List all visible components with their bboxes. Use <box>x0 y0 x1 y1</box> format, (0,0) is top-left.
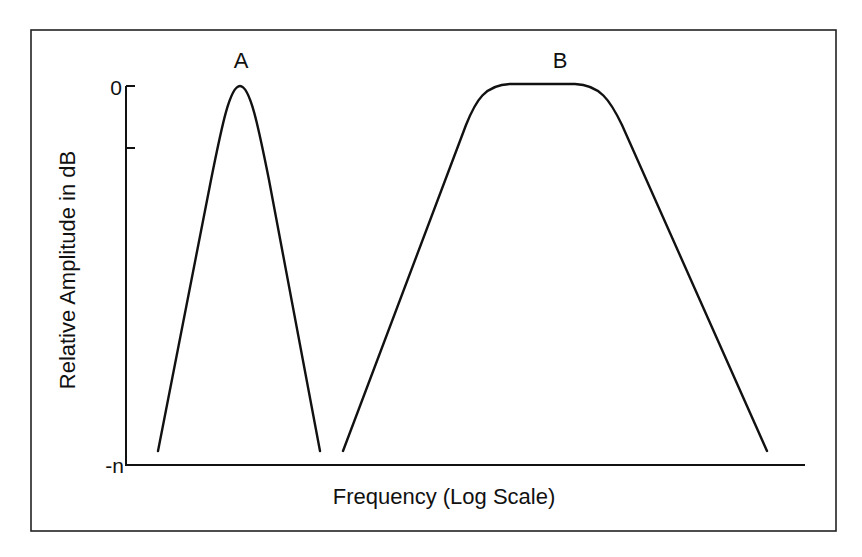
y-tick-label-min: -n <box>105 454 124 477</box>
x-axis-label: Frequency (Log Scale) <box>333 484 556 509</box>
curve-b-label: B <box>553 48 568 73</box>
curve-b <box>343 84 767 451</box>
curve-a-label: A <box>234 48 249 73</box>
filter-response-chart: A B 0 -n Frequency (Log Scale) Relative … <box>0 0 862 557</box>
chart-frame <box>31 30 836 531</box>
curve-a <box>158 86 320 451</box>
y-axis-label: Relative Amplitude in dB <box>55 151 80 389</box>
y-tick-label-zero: 0 <box>110 76 122 99</box>
